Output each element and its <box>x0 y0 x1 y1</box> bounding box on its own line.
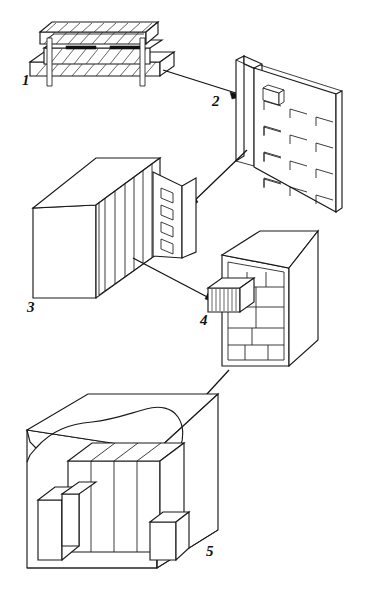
component-3-label: 3 <box>26 299 35 315</box>
chassis-front-panel <box>153 172 182 258</box>
room-floor-unit-c <box>150 512 189 560</box>
component-4-equipment-cabinet: 4 <box>199 231 318 366</box>
component-5-installation-room: 5 <box>27 394 218 568</box>
component-2-label: 2 <box>211 93 220 109</box>
arrow-3-to-4 <box>133 258 219 303</box>
component-4-label: 4 <box>199 312 208 328</box>
component-1-label: 1 <box>22 72 30 88</box>
chassis-door-leaf <box>182 178 196 258</box>
component-2-printed-circuit-board: 2 <box>211 56 342 212</box>
cabinet-withdrawn-module <box>208 278 254 312</box>
chassis-body <box>33 158 160 298</box>
component-1-integrated-circuit-package: 1 <box>22 22 174 88</box>
component-3-card-cage-chassis: 3 <box>26 158 196 315</box>
technical-figure: 1 <box>0 0 372 599</box>
component-5-label: 5 <box>206 543 214 559</box>
arrow-1-to-2 <box>163 70 244 99</box>
figure-canvas: 1 <box>0 0 372 599</box>
